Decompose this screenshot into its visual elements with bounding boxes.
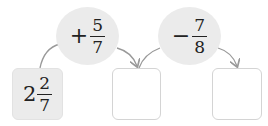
denominator: 7 — [37, 94, 52, 114]
denominator: 8 — [192, 36, 207, 56]
start-mixed-number: 2 2 7 — [23, 75, 52, 114]
arrow-in-1 — [40, 44, 60, 68]
answer-box-2[interactable] — [212, 68, 262, 120]
operator: − — [172, 25, 190, 47]
arrow-out-1 — [117, 48, 137, 66]
numerator: 2 — [37, 75, 52, 94]
arrow-in-2 — [139, 48, 160, 68]
arrow-out-2 — [218, 48, 237, 66]
fraction: 5 7 — [90, 17, 105, 56]
operation-oval-2: − 7 8 — [158, 7, 221, 65]
operation-oval-1: + 5 7 — [56, 7, 119, 65]
start-value-box: 2 2 7 — [12, 68, 63, 120]
operator: + — [70, 25, 88, 47]
numerator: 5 — [90, 17, 105, 36]
denominator: 7 — [90, 36, 105, 56]
numerator: 7 — [192, 17, 207, 36]
answer-box-1[interactable] — [112, 68, 161, 120]
fraction: 7 8 — [192, 17, 207, 56]
whole-part: 2 — [23, 84, 36, 105]
fraction: 2 7 — [37, 75, 52, 114]
